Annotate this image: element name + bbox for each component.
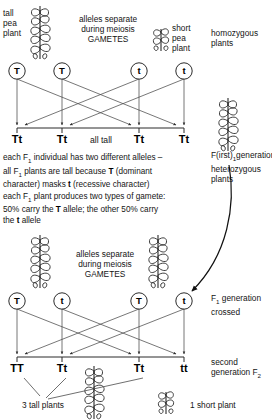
- f2-side-a: second generation F: [211, 357, 258, 377]
- f2-side-sub: 2: [258, 372, 261, 379]
- f2-short-plant-illustration: [158, 392, 173, 414]
- expl-l1-a: each F: [3, 153, 28, 162]
- f1-side-label-first: F(irst): [211, 150, 233, 160]
- meiosis-gametes-label-bottom: alleles separate during meiosis GAMETES: [62, 249, 148, 280]
- f1-cross-plant-left: [31, 235, 50, 288]
- genetics-cross-diagram: tall pea plant alleles separate during m…: [0, 0, 272, 420]
- gamete-label-f1-d: t: [176, 293, 192, 309]
- f1-genotype-4: Tt: [167, 133, 201, 145]
- top-cross-lines: [17, 79, 184, 125]
- f1-cross-plant-right: [149, 235, 168, 288]
- expl-l4-b: plant produces two types of gamete:: [31, 192, 165, 201]
- tall-plants-leader-lines: [24, 378, 143, 399]
- short-pea-plant-label: short pea plant: [172, 23, 190, 54]
- f2-generation-side-label: second generation F2: [211, 357, 261, 381]
- f1-genotype-3: Tt: [122, 133, 156, 145]
- f2-bracket: [17, 357, 184, 362]
- f2-genotype-4: tt: [167, 362, 201, 374]
- gamete-label-f1-c: T: [131, 293, 147, 309]
- f1-bracket: [17, 128, 184, 133]
- gamete-label-f1-b: t: [54, 293, 70, 309]
- expl-l1-b: individual has two different alleles –: [31, 153, 162, 162]
- expl-l4-a: each F: [3, 192, 28, 201]
- f1-plant-illustration: [219, 98, 238, 151]
- tall-plants-count-label: 3 tall plants: [22, 400, 64, 410]
- f1-genotype-2: Tt: [45, 133, 79, 145]
- f1-generation-side-label: F(irst)1generation heterozygous plants: [211, 150, 272, 184]
- f2-genotype-1: TT: [0, 362, 34, 374]
- expl-l5-b: allele; the other 50% carry: [61, 205, 158, 214]
- gamete-label-p2-b: t: [176, 63, 192, 79]
- expl-l5-a: 50% carry the: [3, 205, 56, 214]
- f1-phenotype-label: all tall: [79, 135, 123, 145]
- expl-l2-a: all F: [3, 167, 18, 176]
- gamete-label-f1-a: T: [9, 293, 25, 309]
- homozygous-plants-label: homozygous plants: [211, 28, 258, 48]
- f2-tall-plant-illustration: [85, 366, 104, 419]
- tall-pea-plant-label: tall pea plant: [3, 8, 21, 39]
- short-pea-plant-illustration: [153, 29, 168, 51]
- meiosis-gametes-label-top: alleles separate during meiosis GAMETES: [65, 14, 151, 45]
- bottom-cross-lines: [17, 309, 184, 354]
- short-plants-count-label: 1 short plant: [190, 400, 236, 410]
- expl-l2-c: (dominant: [113, 167, 152, 176]
- f1-genotype-1: Tt: [0, 133, 34, 145]
- gamete-label-p1-a: T: [9, 63, 25, 79]
- gamete-label-p1-b: T: [54, 63, 70, 79]
- expl-l3-a: character) masks: [3, 180, 68, 189]
- f1-crossed-label: F1 generation crossed: [211, 293, 261, 317]
- expl-l3-b: (recessive character): [71, 180, 150, 189]
- f2-genotype-2: Tt: [45, 362, 79, 374]
- expl-l2-b: plants are tall because: [22, 167, 108, 176]
- gamete-label-p2-a: t: [131, 63, 147, 79]
- f1-explanation-paragraph: each F1 individual has two different all…: [3, 152, 205, 226]
- f2-genotype-3: Tt: [122, 362, 156, 374]
- expl-l6-a: the: [3, 216, 17, 225]
- expl-l6-b: allele: [19, 216, 40, 225]
- tall-pea-plant-illustration: [31, 6, 50, 59]
